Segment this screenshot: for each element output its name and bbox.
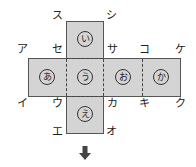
face-label-row-1: あ <box>39 69 55 85</box>
face-label-row-2: う <box>77 69 93 85</box>
vertex-ke: ケ <box>175 44 186 56</box>
fold-line-2 <box>103 59 104 96</box>
vertex-ki: キ <box>139 98 150 110</box>
vertex-u: ウ <box>52 98 63 110</box>
vertex-ko: コ <box>139 44 150 56</box>
vertex-e: エ <box>52 126 63 138</box>
face-label-row-4: か <box>153 69 169 85</box>
vertex-ka: カ <box>107 98 118 110</box>
vertex-se: セ <box>52 44 63 56</box>
down-arrow-icon <box>79 146 91 160</box>
fold-line-1 <box>66 59 67 96</box>
face-label-top: い <box>77 31 93 47</box>
vertex-su: ス <box>52 10 63 22</box>
fold-line-top <box>67 58 103 59</box>
face-label-bottom: え <box>77 106 93 122</box>
vertex-sa: サ <box>107 44 118 56</box>
vertex-ku: ク <box>175 98 186 110</box>
fold-line-3 <box>142 59 143 96</box>
vertex-a: ア <box>17 44 28 56</box>
face-label-row-3: お <box>115 69 131 85</box>
fold-line-bottom <box>67 96 103 97</box>
vertex-shi: シ <box>106 10 117 22</box>
vertex-i: イ <box>17 98 28 110</box>
vertex-o: オ <box>106 126 117 138</box>
